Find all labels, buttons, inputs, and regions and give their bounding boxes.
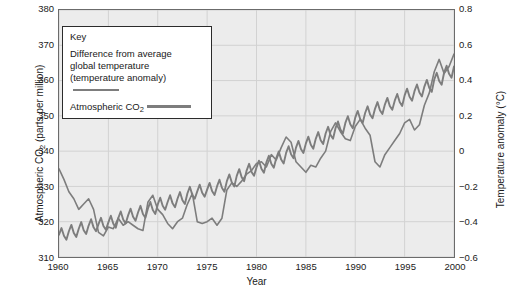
legend: Key Difference from average global tempe…: [62, 26, 212, 119]
y-tick-right-7: 0.8: [459, 4, 472, 14]
y-axis-right-title: Temperature anomaly (°C): [495, 60, 506, 240]
x-tick-1970: 1970: [147, 262, 168, 272]
y-tick-right-3: 0: [459, 147, 464, 157]
y-axis-right-title-wrapper: Temperature anomaly (°C): [492, 60, 508, 240]
x-tick-1985: 1985: [296, 262, 317, 272]
x-tick-1965: 1965: [97, 262, 118, 272]
legend-label-line1: Difference from average: [70, 48, 204, 60]
legend-label-line2: global temperature: [70, 60, 204, 72]
y-tick-right-4: 0.2: [459, 111, 472, 121]
y-tick-right-1: −0.4: [459, 218, 478, 228]
legend-label-line3: (temperature anomaly): [70, 72, 166, 83]
legend-entry-temperature-anomaly: Difference from average global temperatu…: [70, 48, 204, 96]
y-axis-left-title: Atmospheric CO2 (parts per million): [34, 24, 45, 264]
y-tick-right-2: −0.2: [459, 182, 478, 192]
y-axis-left-title-tail: (parts per million): [34, 65, 45, 145]
x-tick-2000: 2000: [444, 262, 465, 272]
co2-temperature-chart: Key Difference from average global tempe…: [0, 0, 512, 307]
legend-entry-co2: Atmospheric CO2: [70, 101, 204, 113]
legend-label-co2: Atmospheric CO: [70, 101, 140, 112]
y-axis-left-title-subscript: 2: [38, 145, 47, 149]
x-tick-1980: 1980: [246, 262, 267, 272]
y-axis-right-ticks: −0.6−0.4−0.200.20.40.60.8: [459, 9, 493, 258]
y-axis-left-title-main: Atmospheric CO: [34, 149, 45, 222]
legend-label-line3-wrap: (temperature anomaly): [70, 72, 204, 96]
y-tick-left-380: 380: [38, 4, 54, 14]
legend-swatch-temperature-anomaly: [73, 89, 119, 91]
x-tick-1960: 1960: [47, 262, 68, 272]
x-axis-title: Year: [58, 276, 455, 287]
x-tick-1975: 1975: [196, 262, 217, 272]
legend-swatch-co2: [147, 105, 191, 108]
x-tick-1995: 1995: [395, 262, 416, 272]
y-tick-right-6: 0.6: [459, 40, 472, 50]
y-axis-left-title-wrapper: Atmospheric CO2 (parts per million): [2, 14, 18, 254]
legend-title: Key: [70, 32, 204, 42]
x-tick-1990: 1990: [345, 262, 366, 272]
x-axis-ticks: 196019651970197519801985199019952000: [58, 262, 455, 276]
y-tick-right-5: 0.4: [459, 75, 472, 85]
legend-label-co2-subscript: 2: [140, 105, 144, 114]
